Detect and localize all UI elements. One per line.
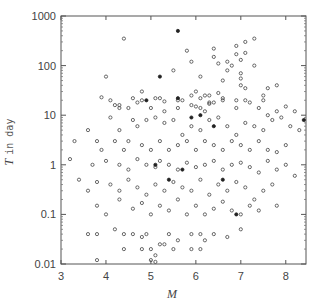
data-point xyxy=(230,64,233,67)
data-point xyxy=(248,204,251,207)
data-point xyxy=(239,58,242,61)
data-point-filled xyxy=(154,163,157,166)
data-point xyxy=(275,84,278,87)
data-point xyxy=(226,60,229,63)
data-point xyxy=(86,189,89,192)
data-point xyxy=(253,125,256,128)
data-point xyxy=(158,243,161,246)
data-point xyxy=(257,106,260,109)
data-point xyxy=(185,161,188,164)
data-point xyxy=(266,87,269,90)
data-point xyxy=(221,79,224,82)
data-point xyxy=(95,233,98,236)
data-point xyxy=(284,163,287,166)
data-point xyxy=(235,53,238,56)
data-point xyxy=(217,116,220,119)
y-tick-label: 100 xyxy=(38,60,56,72)
data-point xyxy=(118,189,121,192)
data-point xyxy=(104,213,107,216)
data-point xyxy=(131,97,134,100)
data-point-filled xyxy=(167,178,170,181)
data-point xyxy=(163,189,166,192)
data-point xyxy=(212,233,215,236)
data-point xyxy=(145,233,148,236)
data-point xyxy=(275,110,278,113)
data-point xyxy=(158,140,161,143)
data-point-filled xyxy=(212,125,215,128)
data-point xyxy=(212,144,215,147)
data-point xyxy=(154,183,157,186)
data-point xyxy=(127,140,130,143)
data-point-filled xyxy=(176,29,179,32)
x-tick-label: 4 xyxy=(103,270,109,282)
data-point xyxy=(127,178,130,181)
data-point xyxy=(154,97,157,100)
data-point xyxy=(239,228,242,231)
data-point xyxy=(122,248,125,251)
data-point xyxy=(140,99,143,102)
y-tick-label: 1000 xyxy=(32,10,56,22)
data-point xyxy=(203,94,206,97)
data-point xyxy=(262,129,265,132)
data-point xyxy=(149,213,152,216)
data-point xyxy=(275,168,278,171)
data-point xyxy=(266,114,269,117)
data-point xyxy=(262,189,265,192)
data-point xyxy=(194,166,197,169)
data-point xyxy=(176,168,179,171)
data-point xyxy=(212,47,215,50)
x-tick-label: 8 xyxy=(283,270,289,282)
data-point xyxy=(104,159,107,162)
data-point xyxy=(122,233,125,236)
data-point xyxy=(127,106,130,109)
data-point xyxy=(163,243,166,246)
data-point xyxy=(118,163,121,166)
data-point xyxy=(217,62,220,65)
data-point xyxy=(271,183,274,186)
data-point xyxy=(194,105,197,108)
y-tick-label: 1 xyxy=(50,159,56,171)
data-point xyxy=(86,129,89,132)
data-point xyxy=(113,228,116,231)
data-point xyxy=(226,69,229,72)
data-point xyxy=(239,72,242,75)
data-point xyxy=(212,55,215,58)
data-point xyxy=(167,233,170,236)
data-point xyxy=(235,180,238,183)
data-point xyxy=(248,166,251,169)
data-point-filled xyxy=(145,99,148,102)
data-point xyxy=(122,37,125,40)
data-point xyxy=(239,213,242,216)
data-point xyxy=(199,75,202,78)
data-point xyxy=(136,186,139,189)
data-point xyxy=(136,158,139,161)
data-point xyxy=(221,168,224,171)
data-point xyxy=(176,144,179,147)
data-point xyxy=(194,204,197,207)
data-point xyxy=(113,140,116,143)
data-point xyxy=(172,180,175,183)
data-point xyxy=(244,51,247,54)
data-point xyxy=(199,233,202,236)
data-point xyxy=(289,125,292,128)
data-point xyxy=(149,106,152,109)
data-point xyxy=(154,116,157,119)
data-point xyxy=(118,198,121,201)
data-point xyxy=(239,84,242,87)
x-tick-label: 6 xyxy=(193,270,199,282)
data-point xyxy=(167,148,170,151)
data-point xyxy=(172,118,175,121)
data-point xyxy=(68,158,71,161)
data-point xyxy=(208,193,211,196)
data-point xyxy=(172,69,175,72)
data-point xyxy=(217,91,220,94)
data-point xyxy=(140,201,143,204)
data-point xyxy=(230,140,233,143)
data-point xyxy=(262,99,265,102)
x-tick-label: 5 xyxy=(148,270,154,282)
data-point xyxy=(284,105,287,108)
data-point xyxy=(221,200,224,203)
data-point xyxy=(239,77,242,80)
data-point xyxy=(163,110,166,113)
data-point xyxy=(199,97,202,100)
